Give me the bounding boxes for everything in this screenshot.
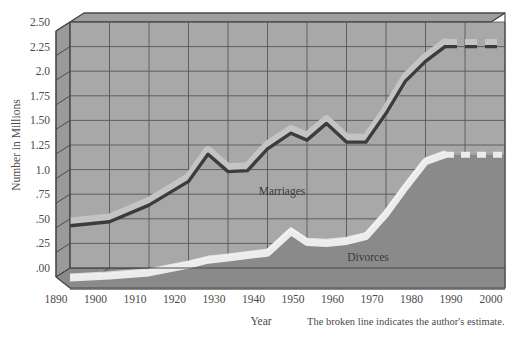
y-tick-label: .75 — [36, 188, 51, 200]
y-tick-label: 1.0 — [36, 164, 51, 176]
x-tick-label: 1910 — [124, 293, 147, 305]
x-tick-label: 1950 — [282, 293, 305, 305]
x-tick-label: 1970 — [361, 293, 384, 305]
chart-page: 2.50 2.25 2.0 1.75 1.50 1.25 1.0 .75 .50… — [0, 0, 519, 339]
x-tick-label: 1930 — [203, 293, 226, 305]
y-tick-label: 2.0 — [36, 65, 51, 77]
y-tick-label: 1.50 — [30, 114, 50, 126]
x-axis-tick-labels: 1890 1900 1910 1920 1930 1940 1950 1960 … — [45, 293, 503, 305]
annotation-marriages: Marriages — [259, 185, 306, 198]
x-tick-label: 2000 — [480, 293, 503, 305]
footnote-text: The broken line indicates the author's e… — [307, 316, 505, 327]
chart-footnote: The broken line indicates the author's e… — [307, 316, 505, 327]
y-tick-label: .25 — [36, 237, 51, 249]
x-tick-label: 1940 — [242, 293, 265, 305]
x-tick-label: 1900 — [84, 293, 107, 305]
x-tick-label: 1890 — [45, 293, 68, 305]
marriages-divorces-chart: 2.50 2.25 2.0 1.75 1.50 1.25 1.0 .75 .50… — [0, 0, 519, 339]
y-axis-title: Number in Millions — [10, 99, 22, 191]
x-tick-label: 1980 — [400, 293, 423, 305]
y-tick-label: 2.25 — [30, 41, 50, 53]
y-axis-title-text: Number in Millions — [10, 99, 22, 191]
y-axis-tick-labels: 2.50 2.25 2.0 1.75 1.50 1.25 1.0 .75 .50… — [30, 16, 50, 274]
x-axis-title-text: Year — [250, 315, 271, 327]
annotation-divorces: Divorces — [347, 251, 389, 263]
x-tick-label: 1920 — [163, 293, 186, 305]
y-tick-label: .50 — [36, 213, 51, 225]
x-tick-label: 1960 — [321, 293, 344, 305]
y-tick-label: .00 — [36, 262, 51, 274]
y-tick-label: 1.75 — [30, 90, 50, 102]
axis-top-wall — [70, 13, 505, 22]
x-axis-title: Year — [250, 315, 271, 327]
x-tick-label: 1990 — [440, 293, 463, 305]
y-tick-label: 2.50 — [30, 16, 50, 28]
y-tick-label: 1.25 — [30, 139, 50, 151]
